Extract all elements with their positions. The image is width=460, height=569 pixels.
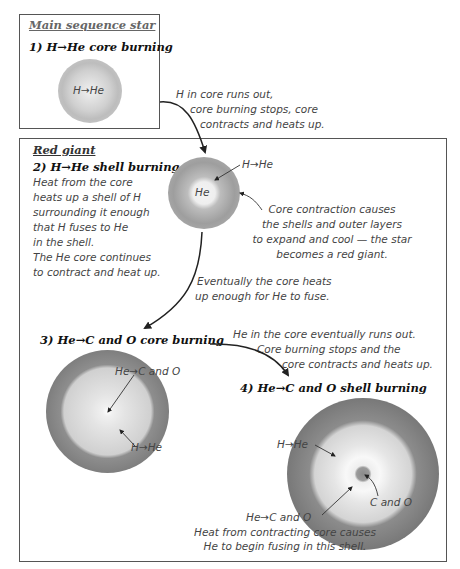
- transition2-arrow: [145, 232, 202, 328]
- stage3-core-leader: [108, 375, 134, 412]
- arrows-overlay: [0, 0, 460, 569]
- stage2-expansion-leader: [240, 193, 262, 210]
- transition1-arrow: [160, 102, 205, 152]
- transition3-arrow: [210, 344, 288, 375]
- stage3-shell-leader: [120, 430, 135, 446]
- stage2-shell-leader: [215, 165, 240, 180]
- stage4-inner-leader: [322, 487, 352, 515]
- stage4-core-leader: [365, 475, 378, 496]
- stage4-outer-leader: [315, 445, 335, 456]
